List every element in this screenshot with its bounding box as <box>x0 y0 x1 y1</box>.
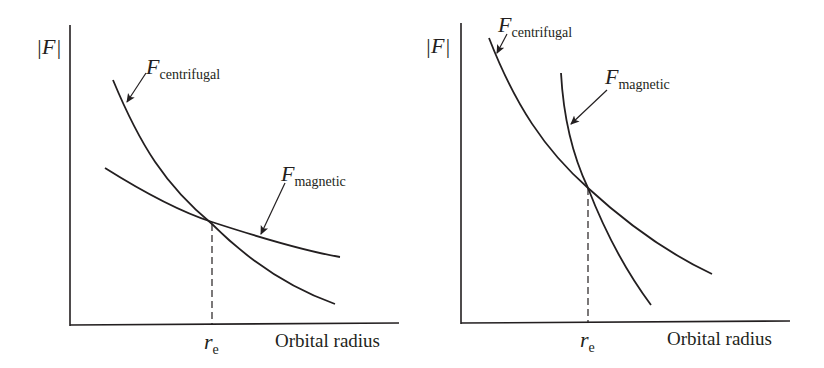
left-y-label-text: |F| <box>36 34 62 59</box>
left-centrifugal-symbol: F <box>146 54 159 79</box>
right-re-label: re <box>580 327 595 353</box>
right-x-axis-label: Orbital radius <box>667 328 772 350</box>
left-y-axis-label: |F| <box>36 34 62 60</box>
right-magnetic-label: Fmagnetic <box>605 64 670 90</box>
right-magnetic-arrow <box>571 90 607 124</box>
left-re-subscript: e <box>213 342 219 357</box>
right-centrifugal-label: Fcentrifugal <box>498 12 572 38</box>
right-x-axis <box>461 321 790 323</box>
right-centrifugal-symbol: F <box>498 12 511 37</box>
left-x-axis-label: Orbital radius <box>275 330 380 352</box>
right-y-axis-label: |F| <box>425 33 451 59</box>
left-centrifugal-subscript: centrifugal <box>159 67 220 82</box>
left-re-label: re <box>204 329 219 355</box>
left-magnetic-subscript: magnetic <box>294 174 345 189</box>
right-centrifugal-curve <box>489 38 712 274</box>
right-re-subscript: e <box>589 340 595 355</box>
right-magnetic-subscript: magnetic <box>618 77 669 92</box>
right-centrifugal-subscript: centrifugal <box>511 25 572 40</box>
left-centrifugal-arrow <box>127 73 146 102</box>
left-panel <box>70 25 399 326</box>
left-centrifugal-label: Fcentrifugal <box>146 54 220 80</box>
left-re-symbol: r <box>204 329 213 354</box>
diagram-canvas <box>0 0 824 368</box>
left-magnetic-label: Fmagnetic <box>281 161 346 187</box>
left-x-axis <box>70 323 399 325</box>
right-y-label-text: |F| <box>425 33 451 58</box>
right-re-symbol: r <box>580 327 589 352</box>
right-magnetic-symbol: F <box>605 64 618 89</box>
right-magnetic-curve <box>561 73 651 305</box>
left-magnetic-symbol: F <box>281 161 294 186</box>
left-magnetic-arrow <box>261 183 285 234</box>
